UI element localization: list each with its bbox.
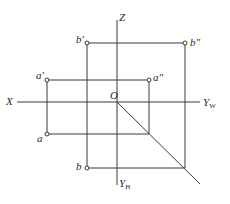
yw-axis-label: YW (203, 97, 216, 110)
a-top-label: a (37, 133, 43, 144)
yw-axis-sub: W (209, 102, 216, 110)
origin-label: O (110, 90, 118, 101)
a-side-label: a″ (153, 72, 163, 83)
yh-axis-label: YH (119, 178, 130, 191)
diagonal-45-line (117, 102, 200, 184)
x-axis-label: X (6, 96, 13, 107)
point-a-side (147, 78, 151, 82)
b-side-label: b″ (190, 37, 200, 48)
z-axis-label: Z (119, 12, 125, 23)
projection-diagram (0, 0, 230, 204)
point-b-side (183, 41, 187, 45)
a-front-label: a′ (36, 70, 44, 81)
b-top-label: b (76, 161, 82, 172)
point-a-top (45, 132, 49, 136)
point-b-front (85, 41, 89, 45)
point-a-front (45, 78, 49, 82)
b-front-label: b′ (76, 34, 84, 45)
yh-axis-sub: H (125, 183, 130, 191)
point-b-top (85, 166, 89, 170)
